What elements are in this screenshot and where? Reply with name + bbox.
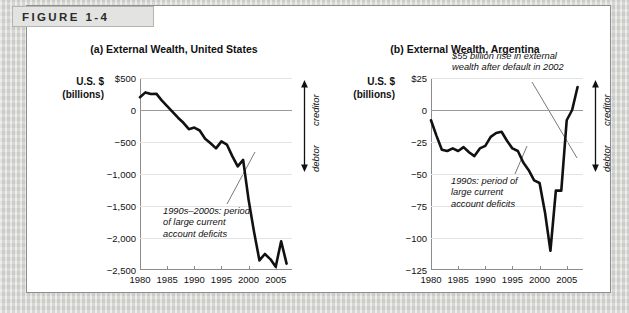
y-axis-title-argentina-line1: U.S. $ [329,76,395,89]
x-tick-label: 2000 [238,274,259,285]
y-tick-label: 0 [131,105,136,116]
y-axis-title-us: U.S. $ (billions) [38,76,104,101]
x-tick-label: 1990 [475,274,496,285]
y-axis-title-argentina-line2: (billions) [329,89,395,102]
annotation-argentina-default: $55 billion rise in external wealth afte… [452,51,604,74]
x-tick-label: 1995 [502,274,523,285]
y-tick-label: −100 [406,233,427,244]
x-tick-label: 1980 [129,274,150,285]
panel-united-states: (a) External Wealth, United States U.S. … [28,38,320,288]
x-tick-label: 2000 [529,274,550,285]
series-line-argentina [431,78,583,270]
y-tick-label: −2,000 [107,233,136,244]
y-tick-label: −500 [115,137,136,148]
figure-plate: (a) External Wealth, United States U.S. … [26,5,611,293]
annotation-us-deficits: 1990s–2000s: period of large current acc… [163,206,283,240]
panel-argentina: (b) External Wealth, Argentina U.S. $ (b… [319,38,611,288]
y-axis-title-us-line1: U.S. $ [38,76,104,89]
y-tick-label: −25 [411,137,427,148]
x-tick-label: 1980 [420,274,441,285]
y-tick-label: −50 [411,169,427,180]
y-tick-label: −75 [411,201,427,212]
y-tick-label: −1,000 [107,169,136,180]
y-tick-label: $25 [411,73,427,84]
figure-number-banner: FIGURE 1-4 [12,6,154,27]
figure-number-label: FIGURE 1-4 [13,11,109,23]
y-tick-label: −1,500 [107,201,136,212]
annotation-argentina-deficits: 1990s: period of large current account d… [451,176,561,210]
x-tick-label: 2005 [265,274,286,285]
plot-area-us: $5000−500−1,000−1,500−2,000−2,500 198019… [140,78,292,270]
debtor-label-argentina: debtor [601,126,612,172]
y-axis-title-argentina: U.S. $ (billions) [329,76,395,101]
creditor-label-argentina: creditor [601,80,612,126]
x-tick-label: 1985 [157,274,178,285]
y-tick-label: $500 [115,73,136,84]
figure-background: (a) External Wealth, United States U.S. … [0,0,629,313]
panel-title-us: (a) External Wealth, United States [28,43,320,55]
x-tick-label: 1985 [448,274,469,285]
y-axis-title-us-line2: (billions) [38,89,104,102]
creditor-debtor-indicator-argentina: creditor debtor [587,80,629,172]
x-tick-label: 1995 [211,274,232,285]
series-line-us [140,78,292,270]
plot-area-argentina: $250−25−50−75−100−125 198019851990199520… [431,78,583,270]
y-tick-label: 0 [422,105,427,116]
x-tick-label: 1990 [184,274,205,285]
x-tick-label: 2005 [556,274,577,285]
